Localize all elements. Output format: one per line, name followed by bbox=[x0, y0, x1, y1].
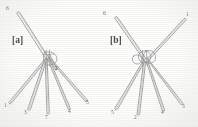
panel-b-needle-label-1: 1 bbox=[186, 12, 189, 18]
panel-a-needle-label-5: 5 bbox=[86, 100, 89, 106]
panel-a-needle-label-4: 4 bbox=[68, 109, 71, 115]
panel-a-needle-label-6: 6 bbox=[6, 6, 9, 12]
panel-a-needle-label-2: 2 bbox=[55, 66, 58, 72]
panel-b-needle-label-5: 5 bbox=[111, 110, 114, 116]
figure-panel-b: [b] 6 1 5 2 4 3 bbox=[99, 0, 198, 127]
panel-b-needle-label-4: 4 bbox=[161, 110, 164, 116]
panel-a-needle-label-1: 1 bbox=[4, 103, 7, 109]
panel-b-needle-label-2: 2 bbox=[134, 115, 137, 121]
panel-b-tag: [b] bbox=[110, 36, 122, 46]
figure-root: [a] 6 1 3 7 4 5 2 bbox=[0, 0, 198, 127]
panel-b-needle-label-6: 6 bbox=[103, 11, 106, 17]
panel-a-needle-label-7: 7 bbox=[45, 115, 48, 121]
figure-panel-a: [a] 6 1 3 7 4 5 2 bbox=[0, 0, 99, 127]
panel-b-needle-label-3: 3 bbox=[182, 104, 185, 110]
panel-a-drawing bbox=[0, 0, 99, 127]
panel-a-needle-label-3: 3 bbox=[24, 110, 27, 116]
panel-a-tag: [a] bbox=[12, 36, 23, 46]
